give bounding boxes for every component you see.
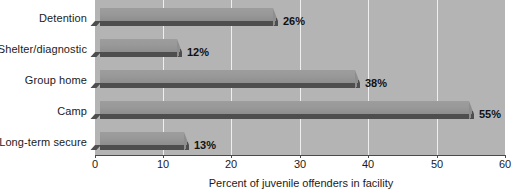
bar-long-term-secure[interactable] — [100, 132, 184, 150]
bar-bevel — [100, 114, 469, 119]
bar-right-cap — [177, 39, 182, 57]
x-tick-label-40: 40 — [362, 159, 374, 170]
x-axis-title-text: Percent of juvenile offenders in facilit… — [209, 177, 393, 189]
gridline-50 — [437, 0, 438, 155]
bar-value-group-home: 38% — [365, 78, 387, 89]
x-axis-title: Percent of juvenile offenders in facilit… — [0, 177, 512, 189]
bar-value-long-term-secure: 13% — [194, 140, 216, 151]
bar-face — [100, 8, 273, 21]
x-tick-label-10: 10 — [157, 159, 169, 170]
bar-bevel — [100, 83, 355, 88]
bar-bevel — [100, 21, 273, 26]
category-label-long-term-secure: Long-term secure — [0, 137, 87, 148]
x-tick-label-30: 30 — [294, 159, 306, 170]
bar-right-cap — [469, 101, 474, 119]
bar-bevel — [100, 52, 177, 57]
bar-shelter-diagnostic[interactable] — [100, 39, 177, 57]
bar-right-cap — [273, 8, 278, 26]
category-label-camp: Camp — [0, 106, 87, 117]
bar-bevel — [100, 145, 184, 150]
bar-face — [100, 39, 177, 52]
x-tick-label-20: 20 — [225, 159, 237, 170]
x-tick-label-60: 60 — [499, 159, 511, 170]
bar-detention[interactable] — [100, 8, 273, 26]
category-label-detention: Detention — [0, 13, 87, 24]
bar-value-detention: 26% — [283, 16, 305, 27]
x-tick-label-50: 50 — [431, 159, 443, 170]
category-label-column: Detention Shelter/diagnostic Group home … — [0, 0, 91, 155]
bar-camp[interactable] — [100, 101, 469, 119]
bar-group-home[interactable] — [100, 70, 355, 88]
bar-value-shelter-diagnostic: 12% — [187, 47, 209, 58]
bar-face — [100, 132, 184, 145]
plot-area: 26% 12% 38% 55% 13% — [95, 0, 505, 155]
bar-face — [100, 101, 469, 114]
bar-chart: Detention Shelter/diagnostic Group home … — [0, 0, 512, 196]
bar-right-cap — [355, 70, 360, 88]
category-label-group-home: Group home — [0, 75, 87, 86]
bar-right-cap — [184, 132, 189, 150]
category-label-shelter-diagnostic: Shelter/diagnostic — [0, 44, 87, 55]
bar-face — [100, 70, 355, 83]
bar-value-camp: 55% — [479, 109, 501, 120]
x-tick-label-0: 0 — [92, 159, 98, 170]
